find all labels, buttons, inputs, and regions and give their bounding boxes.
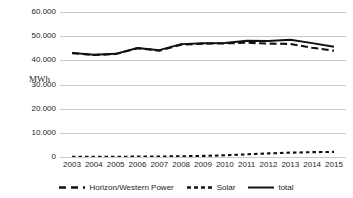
x-axis-tick-label: 2007 (147, 160, 171, 169)
x-axis-tick-label: 2009 (191, 160, 215, 169)
legend-item[interactable]: Solar (187, 183, 236, 192)
x-axis-tick-label: 2004 (82, 160, 106, 169)
plot-area (60, 12, 346, 157)
series-line (72, 152, 334, 157)
legend-item-label: Horizon/Western Power (89, 183, 173, 192)
x-axis-tick-label: 2003 (60, 160, 84, 169)
legend-swatch-icon (248, 183, 274, 192)
legend-item[interactable]: total (248, 183, 293, 192)
y-axis-tick-labels: 60.00050.00040.00030.00020.00010.0000 (8, 0, 56, 198)
series-line (72, 40, 334, 55)
y-axis-tick-label: 10.000 (12, 129, 56, 137)
x-axis-tick-label: 2011 (235, 160, 259, 169)
x-axis-tick-label: 2013 (278, 160, 302, 169)
x-axis-tick-label: 2015 (322, 160, 346, 169)
legend-swatch-icon (187, 183, 213, 192)
y-axis-tick-label: 50.000 (12, 32, 56, 40)
y-axis-tick-label: 30.000 (12, 81, 56, 89)
x-axis-tick-label: 2014 (300, 160, 324, 169)
legend-item[interactable]: Horizon/Western Power (59, 183, 173, 192)
x-axis-tick-label: 2006 (126, 160, 150, 169)
y-axis-tick-label: 60.000 (12, 8, 56, 16)
line-chart: MWh 60.00050.00040.00030.00020.00010.000… (0, 0, 353, 198)
legend-item-label: Solar (217, 183, 236, 192)
x-axis-tick-labels: 2003200420052006200720082009201020112012… (56, 160, 350, 172)
y-axis-tick-label: 20.000 (12, 105, 56, 113)
x-axis-tick-label: 2005 (104, 160, 128, 169)
x-axis-tick-label: 2012 (257, 160, 281, 169)
legend-item-label: total (278, 183, 293, 192)
y-axis-tick-label: 40.000 (12, 56, 56, 64)
x-axis-tick-label: 2008 (169, 160, 193, 169)
chart-legend: Horizon/Western PowerSolartotal (0, 180, 353, 194)
gridline (60, 157, 346, 158)
legend-swatch-icon (59, 183, 85, 192)
x-axis-tick-label: 2010 (213, 160, 237, 169)
series-lines (60, 12, 346, 157)
y-axis-tick-label: 0 (12, 153, 56, 161)
